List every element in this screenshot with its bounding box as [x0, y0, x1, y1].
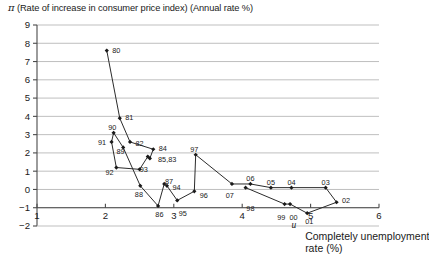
- x-tick-label: 1: [34, 210, 39, 221]
- data-point-label: 81: [125, 113, 133, 122]
- data-point-label: 01: [305, 217, 313, 226]
- data-point-label: 84: [159, 144, 167, 153]
- x-tick-label: 3: [171, 210, 176, 221]
- y-tick-label: 7: [25, 56, 30, 67]
- x-axis-caption-line2: rate (%): [305, 242, 342, 254]
- y-tick-label: −2: [19, 220, 30, 231]
- data-point-label: 88: [135, 190, 143, 199]
- data-point-label: 96: [200, 191, 208, 200]
- data-point-marker: [105, 48, 109, 52]
- data-point-label: 99: [277, 213, 285, 222]
- data-point-label: 93: [140, 165, 148, 174]
- data-point-label: 94: [172, 183, 180, 192]
- y-tick-label: 9: [25, 19, 30, 30]
- x-tick-label: 6: [376, 210, 381, 221]
- series-line: [107, 51, 337, 214]
- x-axis-symbol: u: [291, 220, 296, 230]
- data-point-label: 82: [135, 139, 143, 148]
- data-point-marker: [288, 202, 292, 206]
- y-tick-label: −1: [19, 202, 30, 213]
- data-point-label: 85,83: [158, 155, 176, 164]
- data-point-label: 06: [246, 174, 254, 183]
- data-point-marker: [283, 202, 287, 206]
- x-tick-label: 2: [103, 210, 108, 221]
- y-tick-label: 8: [25, 38, 30, 49]
- data-point-marker: [109, 140, 113, 144]
- y-tick-label: 0: [25, 184, 30, 195]
- x-axis-caption-line1: Completely unemployment: [305, 230, 429, 242]
- y-tick-label: 4: [25, 111, 31, 122]
- data-point-label: 05: [267, 178, 275, 187]
- data-point-label: 92: [105, 168, 113, 177]
- x-axis-caption: Completely unemployment rate (%): [305, 230, 429, 255]
- data-point-label: 07: [226, 191, 234, 200]
- data-point-marker: [128, 140, 132, 144]
- y-tick-label: 2: [25, 147, 30, 158]
- data-point-label: 86: [155, 210, 163, 219]
- data-point-label: 97: [190, 145, 198, 154]
- y-tick-label: 1: [25, 166, 30, 177]
- data-point-label: 89: [116, 147, 124, 156]
- data-point-label: 02: [342, 196, 350, 205]
- data-point-label: 98: [246, 204, 254, 213]
- x-tick-label: 4: [240, 210, 246, 221]
- data-point-label: 95: [179, 209, 187, 218]
- y-tick-label: 5: [25, 92, 30, 103]
- data-point-label: 80: [112, 46, 120, 55]
- data-point-label: 90: [108, 123, 116, 132]
- data-point-marker: [151, 147, 155, 151]
- y-tick-label: 3: [25, 129, 30, 140]
- data-point-marker: [114, 165, 118, 169]
- data-point-label: 04: [287, 178, 295, 187]
- data-point-label: 91: [98, 138, 106, 147]
- y-tick-label: 6: [25, 74, 30, 85]
- data-point-label: 03: [322, 178, 330, 187]
